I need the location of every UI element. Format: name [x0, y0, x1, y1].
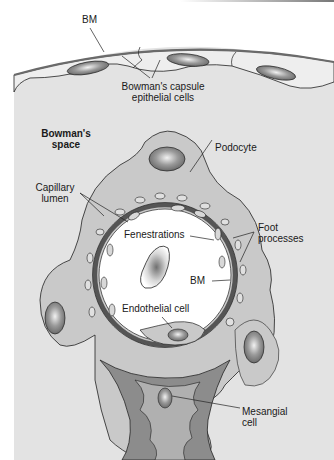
label-foot-processes: Foot processes [258, 222, 304, 244]
podocyte-nucleus [149, 147, 185, 171]
label-bm-capsule: BM [82, 14, 97, 25]
label-bowman-space: Bowman's space [36, 128, 96, 150]
label-mesangial-cell: Mesangial cell [242, 406, 288, 428]
label-capillary-lumen: Capillary lumen [30, 182, 80, 204]
label-bm-capillary: BM [190, 275, 205, 286]
podocyte-nucleus [45, 302, 65, 334]
label-podocyte: Podocyte [215, 142, 257, 153]
endothelial-nucleus [168, 329, 188, 341]
label-fenestrations: Fenestrations [124, 229, 185, 240]
glomerulus-diagram: BM Bowman's capsule epithelial cells Bow… [0, 0, 334, 460]
mesangial-nucleus [158, 388, 172, 408]
label-endothelial-cell: Endothelial cell [122, 303, 189, 314]
label-bowman-capsule-cells: Bowman's capsule epithelial cells [108, 81, 218, 103]
top-edge-bar [180, 0, 334, 2]
podocyte-nucleus [244, 331, 264, 363]
